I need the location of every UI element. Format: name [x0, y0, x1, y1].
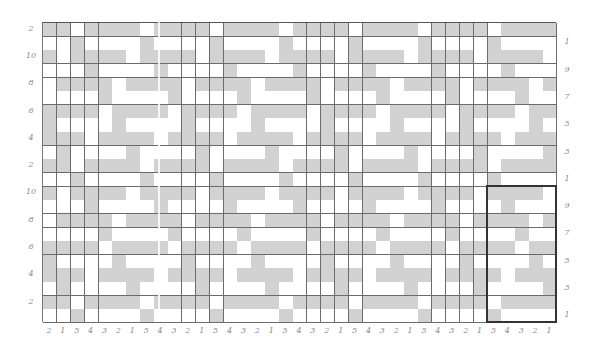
chart-cell [154, 91, 168, 105]
chart-cell [529, 146, 543, 160]
chart-cell [432, 241, 446, 255]
chart-cell [432, 255, 446, 269]
chart-cell [404, 37, 418, 51]
chart-cell [279, 228, 293, 242]
chart-cell [57, 91, 71, 105]
row-number-label-right: 9 [560, 201, 574, 210]
chart-cell [265, 228, 279, 242]
chart-cell [432, 296, 446, 310]
chart-cell [154, 118, 168, 132]
chart-cell [488, 146, 502, 160]
chart-cell [293, 146, 307, 160]
chart-cell [307, 296, 321, 310]
chart-cell [210, 282, 224, 296]
chart-cell [251, 159, 265, 173]
chart-cell [140, 187, 154, 201]
chart-cell [515, 132, 529, 146]
chart-cell [182, 187, 196, 201]
stitch-number-label: 2 [250, 326, 264, 335]
chart-cell [265, 309, 279, 323]
chart-cell [265, 118, 279, 132]
chart-cell [293, 173, 307, 187]
chart-cell [432, 159, 446, 173]
chart-cell [515, 78, 529, 92]
chart-cell [140, 78, 154, 92]
chart-cell [154, 173, 168, 187]
chart-cell [154, 296, 168, 310]
chart-cell [140, 309, 154, 323]
chart-cell [251, 64, 265, 78]
chart-cell [460, 159, 474, 173]
chart-cell [154, 309, 168, 323]
chart-cell [474, 23, 488, 37]
chart-cell [363, 255, 377, 269]
chart-cell [321, 268, 335, 282]
chart-cell [71, 173, 85, 187]
chart-cell [293, 50, 307, 64]
chart-cell [154, 159, 168, 173]
chart-cell [210, 37, 224, 51]
chart-cell [224, 282, 238, 296]
chart-cell [210, 159, 224, 173]
stitch-number-label: 2 [42, 326, 56, 335]
chart-cell [376, 241, 390, 255]
chart-cell [112, 255, 126, 269]
chart-cell [349, 173, 363, 187]
chart-cell [168, 173, 182, 187]
chart-cell [112, 200, 126, 214]
chart-cell [251, 105, 265, 119]
chart-cell [279, 173, 293, 187]
chart-cell [390, 228, 404, 242]
chart-cell [307, 173, 321, 187]
chart-cell [293, 268, 307, 282]
chart-cell [488, 118, 502, 132]
chart-cell [210, 296, 224, 310]
stitch-number-label: 2 [111, 326, 125, 335]
chart-cell [224, 146, 238, 160]
row-number-label-right: 1 [560, 310, 574, 319]
chart-cell [237, 200, 251, 214]
chart-cell [196, 309, 210, 323]
chart-cell [460, 282, 474, 296]
chart-cell [474, 118, 488, 132]
chart-cell [265, 105, 279, 119]
stitch-number-label: 3 [514, 326, 528, 335]
chart-cell [279, 241, 293, 255]
chart-cell [168, 50, 182, 64]
chart-cell [363, 64, 377, 78]
chart-cell [279, 78, 293, 92]
chart-cell [251, 200, 265, 214]
chart-cell [99, 268, 113, 282]
stitch-number-label: 3 [445, 326, 459, 335]
chart-cell [446, 268, 460, 282]
chart-cell [335, 78, 349, 92]
chart-cell [460, 23, 474, 37]
chart-cell [390, 105, 404, 119]
chart-cell [501, 146, 515, 160]
chart-cell [57, 64, 71, 78]
chart-cell [543, 23, 557, 37]
chart-cell [349, 214, 363, 228]
chart-cell [168, 214, 182, 228]
chart-cell [85, 282, 99, 296]
chart-cell [432, 23, 446, 37]
chart-cell [140, 282, 154, 296]
chart-cell [460, 214, 474, 228]
chart-cell [335, 200, 349, 214]
chart-cell [307, 132, 321, 146]
chart-cell [182, 64, 196, 78]
chart-cell [363, 146, 377, 160]
chart-cell [237, 296, 251, 310]
chart-cell [390, 91, 404, 105]
chart-cell [418, 91, 432, 105]
row-number-label-left: 6 [24, 242, 38, 251]
chart-cell [390, 309, 404, 323]
chart-cell [224, 255, 238, 269]
chart-cell [446, 200, 460, 214]
chart-cell [460, 105, 474, 119]
chart-cell [71, 132, 85, 146]
chart-cell [154, 187, 168, 201]
row-number-label-left: 10 [24, 187, 38, 196]
chart-cell [432, 118, 446, 132]
chart-cell [182, 228, 196, 242]
